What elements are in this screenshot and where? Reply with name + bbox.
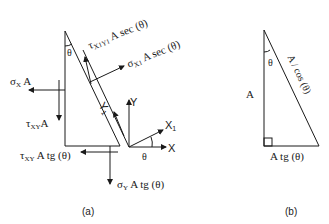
theta-arc-b xyxy=(264,50,270,52)
figure-a: θ τX1Y1 A sec (θ) σX1 A sec (θ) σX A τXY… xyxy=(10,16,183,217)
theta-arc-top xyxy=(65,44,72,46)
side-vertical-label: A xyxy=(246,88,254,100)
tau-xy-label: τXYA xyxy=(26,117,49,131)
x1-axis-label: X1 xyxy=(165,119,176,132)
sigma-x1-arrow xyxy=(90,66,124,82)
theta-label-b: θ xyxy=(268,57,273,68)
theta-label-top: θ xyxy=(67,47,72,58)
tau-x1y1-label: τX1Y1 A sec (θ) xyxy=(86,16,150,53)
svg-text:τX1Y1 A sec (θ): τX1Y1 A sec (θ) xyxy=(86,16,150,53)
side-bottom-label: A tg (θ) xyxy=(270,150,304,163)
sigma-y-tg-label: σY A tg (θ) xyxy=(117,178,164,192)
figure-b: θ A A / cos (θ) A tg (θ) (b) xyxy=(246,30,319,217)
sigma-x1-label: σX1 A sec (θ) xyxy=(125,37,183,71)
caption-a: (a) xyxy=(82,206,94,217)
svg-text:σX1 A sec (θ): σX1 A sec (θ) xyxy=(125,37,183,71)
stress-element-diagram: θ τX1Y1 A sec (θ) σX1 A sec (θ) σX A τXY… xyxy=(0,0,329,224)
caption-b: (b) xyxy=(285,206,297,217)
theta-label-axis: θ xyxy=(142,151,147,162)
sigma-x-label: σX A xyxy=(10,75,31,89)
side-hypotenuse-label: A / cos (θ) xyxy=(285,53,314,96)
theta-arc-axis xyxy=(151,137,152,147)
y1-axis-arrow xyxy=(114,112,124,136)
x1-axis-arrow xyxy=(129,130,163,147)
right-angle-marker xyxy=(264,138,272,146)
y-axis-label: Y xyxy=(130,96,138,108)
tau-xy-tg-label: τXY A tg (θ) xyxy=(20,149,71,163)
x-axis-label: X xyxy=(168,142,176,154)
